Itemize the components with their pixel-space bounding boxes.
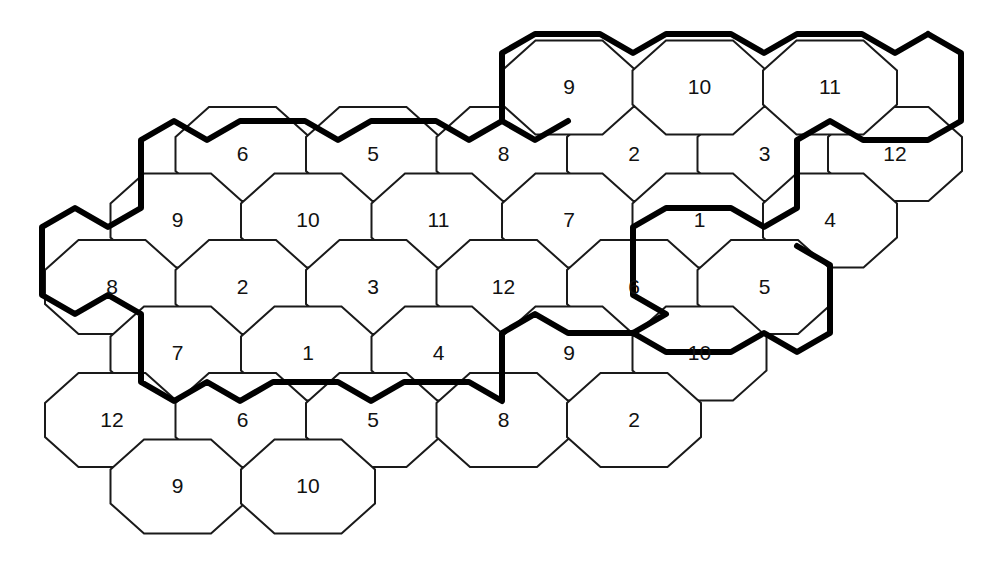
hex-cell-label: 4 [433,341,445,364]
hex-cell-label: 10 [688,341,711,364]
hex-cell-label: 1 [694,208,706,231]
hex-cell-label: 12 [492,275,515,298]
hex-cell-label: 10 [296,474,319,497]
hex-cell-label: 11 [819,75,841,98]
hex-cell-label: 3 [367,275,379,298]
hex-cell-label: 2 [628,142,640,165]
hex-cell-label: 12 [100,408,123,431]
hex-cell-label: 12 [883,142,906,165]
hex-cell-label: 10 [296,208,319,231]
hex-cell-label: 1 [302,341,314,364]
hex-cell-label: 8 [498,408,510,431]
hex-cell-label: 9 [172,474,184,497]
hex-cell-label: 7 [172,341,184,364]
hex-cell-label: 3 [759,142,771,165]
hex-cell-label: 2 [628,408,640,431]
hex-cell-label: 9 [172,208,184,231]
hex-cell-label: 6 [628,275,640,298]
hex-cell-label: 10 [688,75,711,98]
hex-cell-label: 9 [563,341,575,364]
hex-cell-label: 2 [237,275,249,298]
hex-cell-label: 8 [498,142,510,165]
hex-cell-label: 6 [237,142,249,165]
hex-cell-label: 6 [237,408,249,431]
hex-cell-label: 5 [367,142,379,165]
hex-cell-label: 5 [367,408,379,431]
hex-cell-label: 9 [563,75,575,98]
hexagon-grid-figure: 6582312910119101171482312657149101265829… [0,0,999,564]
hex-cell-label: 8 [106,275,118,298]
hex-cell-label: 11 [428,208,450,231]
hex-cell-label: 7 [563,208,575,231]
hex-cell-label: 4 [824,208,836,231]
hex-cell-label: 5 [759,275,771,298]
